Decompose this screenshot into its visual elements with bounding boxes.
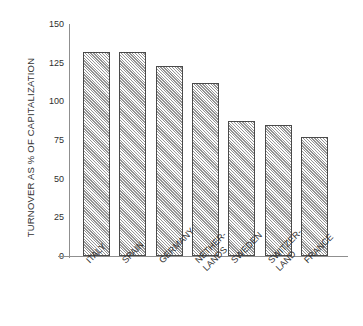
bar-chart: TURNOVER AS % OF CAPITALIZATION 02550751… [0, 0, 363, 326]
y-axis-title: TURNOVER AS % OF CAPITALIZATION [25, 23, 36, 273]
bar [83, 52, 110, 256]
y-axis-tick-labels: 0255075100125150 [38, 0, 64, 326]
bars-container [69, 24, 344, 256]
bar [119, 52, 146, 256]
y-tick-label: 150 [40, 19, 64, 29]
y-tick-label: 75 [40, 135, 64, 145]
bar [192, 83, 219, 256]
y-tick-label: 100 [40, 96, 64, 106]
x-axis-labels-container: ITALYSPAINGERMANYNETHER-LANDSSWEDENSWITZ… [69, 258, 344, 326]
bar [156, 66, 183, 256]
y-tick-label: 50 [40, 174, 64, 184]
y-tick-label: 25 [40, 212, 64, 222]
y-tick-label: 125 [40, 58, 64, 68]
